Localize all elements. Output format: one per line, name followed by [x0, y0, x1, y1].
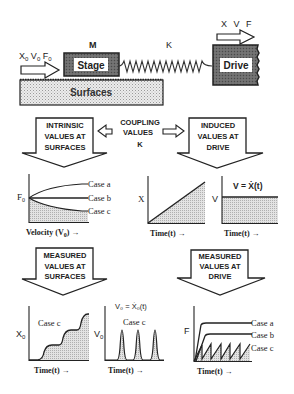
svg-text:Time(t) →: Time(t) →: [150, 229, 186, 238]
stage-label: Stage: [77, 60, 105, 71]
coupling-double-arrow: COUPLING VALUES K: [98, 118, 184, 149]
svg-text:SURFACES: SURFACES: [45, 143, 86, 152]
input-vars-label: X0 V0 F0: [19, 51, 52, 62]
svg-text:INDUCED: INDUCED: [201, 121, 236, 130]
svg-text:VALUES AT: VALUES AT: [199, 262, 241, 271]
svg-text:Case c: Case c: [38, 318, 61, 328]
input-arrow: [21, 62, 59, 78]
svg-text:F: F: [184, 326, 190, 336]
svg-text:V0: V0: [94, 329, 104, 340]
measured-surfaces-arrow: MEASURED VALUES AT SURFACES: [22, 248, 107, 295]
svg-text:Case b: Case b: [251, 330, 274, 340]
svg-text:Case a: Case a: [88, 179, 111, 189]
stage-block: Stage: [64, 53, 119, 76]
svg-text:INTRINSIC: INTRINSIC: [46, 121, 84, 130]
chart-drive-force: F Case a Case b Case c Time(t) →: [184, 306, 274, 376]
svg-text:DRIVE: DRIVE: [207, 143, 230, 152]
drive-vars-label: X V F: [221, 19, 254, 29]
svg-text:F0: F0: [17, 192, 25, 203]
svg-text:MEASURED: MEASURED: [44, 251, 88, 260]
svg-text:VALUES AT: VALUES AT: [197, 132, 239, 141]
drive-block: Drive: [213, 45, 259, 85]
svg-text:Case c: Case c: [251, 343, 274, 353]
svg-text:VALUES: VALUES: [123, 128, 153, 137]
induced-arrow: INDUCED VALUES AT DRIVE: [177, 118, 263, 168]
chart-velocity-vs-time: V V = Ẋ(t) Time(t) →: [212, 176, 278, 238]
surfaces-label: Surfaces: [70, 87, 113, 98]
svg-text:V₀ = Ẋ₀(t): V₀ = Ẋ₀(t): [115, 302, 147, 311]
chart-stage-velocity-spikes: V₀ = Ẋ₀(t) V0 Case c Time(t) →: [94, 302, 164, 375]
diagram: X0 V0 F0 M Stage K Drive X V F Surfaces …: [0, 0, 294, 394]
svg-text:VALUES AT: VALUES AT: [44, 132, 86, 141]
spring-label: K: [166, 40, 172, 50]
chart-position-vs-time: X Time(t) →: [138, 176, 205, 238]
spring: [119, 61, 212, 72]
svg-text:V = Ẋ(t): V = Ẋ(t): [233, 181, 263, 191]
svg-text:DRIVE: DRIVE: [209, 272, 232, 281]
svg-text:Time(t) →: Time(t) →: [197, 367, 233, 376]
svg-text:VALUES AT: VALUES AT: [44, 262, 86, 271]
svg-text:MEASURED: MEASURED: [199, 252, 243, 261]
svg-text:X0: X0: [16, 329, 26, 340]
svg-text:Time(t) →: Time(t) →: [34, 366, 70, 375]
drive-label: Drive: [223, 60, 248, 71]
svg-text:Case b: Case b: [88, 193, 111, 203]
chart-friction-vs-velocity: F0 Case a Case b Case c Velocity (V0) →: [17, 174, 111, 238]
svg-text:K: K: [137, 140, 143, 149]
surfaces-block: Surfaces: [20, 80, 163, 106]
measured-drive-arrow: MEASURED VALUES AT DRIVE: [177, 250, 265, 295]
svg-text:COUPLING: COUPLING: [120, 118, 160, 127]
svg-text:X: X: [138, 194, 145, 204]
svg-text:Case c: Case c: [123, 317, 146, 327]
svg-text:Case a: Case a: [251, 318, 274, 328]
svg-text:Time(t) →: Time(t) →: [224, 229, 260, 238]
intrinsic-arrow: INTRINSIC VALUES AT SURFACES: [22, 118, 107, 167]
svg-text:Velocity (V0) →: Velocity (V0) →: [26, 228, 79, 238]
svg-text:SURFACES: SURFACES: [45, 272, 86, 281]
drive-arrow: [217, 30, 254, 44]
chart-stage-position-staircase: X0 Case c Time(t) →: [16, 306, 89, 375]
svg-text:Time(t) →: Time(t) →: [108, 366, 144, 375]
mass-label: M: [89, 40, 97, 50]
svg-text:V: V: [212, 194, 218, 204]
svg-text:Case c: Case c: [88, 206, 111, 216]
